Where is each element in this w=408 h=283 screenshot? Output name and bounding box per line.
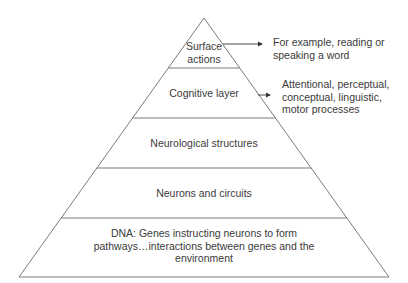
layer-label-neurons-and-circuits: Neurons and circuits [124, 187, 284, 200]
annotation-cognitive-layer: Attentional, perceptual, conceptual, lin… [282, 78, 408, 116]
layer-label-line: Cognitive layer [154, 87, 254, 100]
annotation-surface-actions: For example, reading or speaking a word [273, 36, 408, 61]
layer-label-line: Surface [174, 40, 234, 53]
layer-label-line: DNA: Genes instructing neurons to form [74, 227, 334, 240]
layer-label-line: Neurological structures [124, 137, 284, 150]
layer-label-line: pathways…interactions between genes and … [74, 240, 334, 253]
layer-label-line: actions [174, 53, 234, 66]
annotation-line: For example, reading or [273, 36, 408, 49]
layer-label-neurological-structures: Neurological structures [124, 137, 284, 150]
layer-label-surface-actions: Surface actions [174, 40, 234, 65]
layer-label-line: Neurons and circuits [124, 187, 284, 200]
annotation-line: speaking a word [273, 49, 408, 62]
annotation-line: motor processes [282, 103, 408, 116]
annotation-line: Attentional, perceptual, [282, 78, 408, 91]
layer-label-dna: DNA: Genes instructing neurons to form p… [74, 227, 334, 265]
layer-label-line: environment [74, 252, 334, 265]
annotation-line: conceptual, linguistic, [282, 91, 408, 104]
layer-label-cognitive-layer: Cognitive layer [154, 87, 254, 100]
